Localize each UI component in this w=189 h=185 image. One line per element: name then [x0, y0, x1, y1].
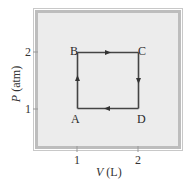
arrow-right-icon [105, 50, 111, 55]
point-label-c: C [138, 45, 146, 57]
cycle-path [78, 53, 139, 109]
point-label-d: D [137, 113, 146, 125]
pv-diagram-svg [0, 0, 189, 185]
y-axis-unit: (atm) [9, 66, 23, 92]
arrow-up-icon [75, 75, 80, 81]
point-label-a: A [71, 113, 80, 125]
y-axis-variable: P [9, 95, 23, 102]
x-axis-unit: (L) [106, 165, 121, 179]
y-tick-label-2: 2 [25, 46, 31, 58]
y-tick-label-1: 1 [25, 103, 31, 115]
point-label-b: B [70, 45, 78, 57]
x-axis-title: V (L) [96, 166, 122, 178]
x-tick-label-1: 1 [74, 154, 80, 166]
x-axis-variable: V [96, 165, 103, 179]
arrow-left-icon [104, 106, 110, 111]
x-tick-label-2: 2 [135, 154, 141, 166]
y-axis-title: P (atm) [10, 62, 22, 106]
arrow-down-icon [136, 78, 141, 84]
